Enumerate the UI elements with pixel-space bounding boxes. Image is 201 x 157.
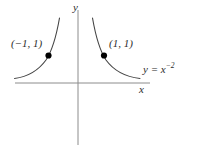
data-point-right	[101, 52, 107, 58]
point-label-left: (−1, 1)	[11, 38, 42, 49]
data-point-left	[45, 52, 51, 58]
equation-exponent: −2	[166, 61, 175, 70]
graph-figure: (−1, 1) (1, 1) y = x−2 y x	[0, 0, 201, 157]
y-axis-label: y	[73, 2, 78, 13]
point-label-right: (1, 1)	[109, 38, 133, 49]
plot-canvas	[0, 0, 201, 157]
curve-equation-label: y = x−2	[143, 62, 175, 75]
equation-base: y = x	[143, 63, 166, 75]
x-axis-label: x	[139, 84, 144, 95]
